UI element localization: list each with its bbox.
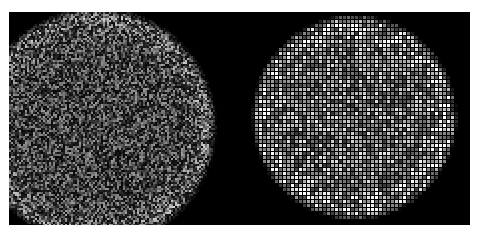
image-frame xyxy=(9,12,470,225)
micrograph-canvas xyxy=(9,12,470,225)
